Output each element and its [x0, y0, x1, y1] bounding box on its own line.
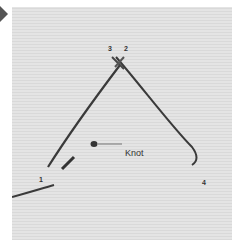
thread-left-leg	[48, 65, 120, 167]
label-point-1: 1	[39, 176, 43, 183]
label-point-3: 3	[108, 45, 112, 52]
thread-diagram	[12, 7, 232, 240]
label-point-2: 2	[124, 45, 128, 52]
pointer-arrow-icon	[0, 6, 8, 22]
stitch-photo: 1 2 3 4 Knot	[12, 7, 232, 240]
label-knot: Knot	[125, 148, 144, 158]
thread-tail	[12, 185, 54, 197]
knot-icon	[91, 141, 98, 147]
needle-segment	[62, 157, 74, 169]
label-point-4: 4	[202, 179, 206, 186]
